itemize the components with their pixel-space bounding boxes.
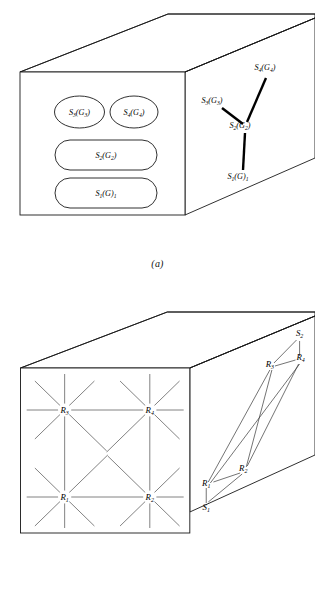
panel-b: R3 R4 R1 R2 (0, 290, 315, 597)
tree-node-s4-label: S4(G4) (254, 63, 275, 73)
ellipse-s4-label: S4(G4) (123, 108, 144, 118)
net-edge-r4-r2 (247, 364, 298, 466)
tree-edge-s2-s4 (247, 78, 266, 122)
net-edge-s2-r3 (274, 340, 297, 363)
net-node-r1-label: R1 (201, 478, 210, 489)
panel-a-caption: (a) (0, 258, 315, 269)
net-edge-r4-r1 (210, 364, 299, 483)
figure-page: S3(G3) S4(G4) S2(G2) S1(G)1 S3(G3) (0, 0, 315, 597)
panel-a-drawing: S3(G3) S4(G4) S2(G2) S1(G)1 S3(G3) (0, 0, 315, 290)
panel-a: S3(G3) S4(G4) S2(G2) S1(G)1 S3(G3) (0, 0, 315, 290)
net-node-s2-label: S2 (296, 328, 303, 339)
net-edge-r2-r1 (213, 473, 240, 482)
tree-edge-s2-s1 (243, 133, 245, 170)
prism-top-face (20, 14, 315, 72)
tree-node-s2-label: S2(G2) (229, 121, 250, 131)
net-node-r4-label: R4 (295, 352, 304, 363)
net-node-r3-label: R3 (265, 359, 274, 370)
net-node-r2-label: R2 (238, 463, 247, 474)
prism-b-front-face (21, 368, 190, 533)
tree-node-s3-label: S3(G3) (201, 96, 222, 106)
net-edge-r4-r3 (275, 360, 296, 366)
capsule-s2-label: S2(G2) (95, 151, 116, 161)
ellipse-s3-label: S3(G3) (69, 108, 90, 118)
prism-b-top-left-edge (21, 312, 168, 368)
side-network (206, 340, 299, 503)
capsule-s1-label: S1(G)1 (95, 189, 116, 199)
prism-top-left-edge (20, 14, 168, 72)
panel-b-drawing: R3 R4 R1 R2 (0, 290, 315, 597)
tree-node-s1-label: S1(G)1 (227, 172, 248, 182)
